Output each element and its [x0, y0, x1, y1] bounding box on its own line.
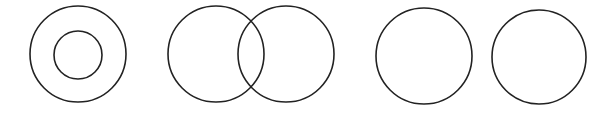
inner-circle: [54, 31, 102, 79]
left-circle: [376, 8, 472, 104]
group-overlapping-circles: [168, 6, 334, 102]
group-concentric-circles: [30, 6, 126, 102]
right-circle: [238, 6, 334, 102]
circle-relations-diagram: [0, 0, 615, 114]
group-separate-circles: [376, 8, 586, 104]
outer-circle: [30, 6, 126, 102]
right-circle: [492, 10, 586, 104]
left-circle: [168, 6, 264, 102]
